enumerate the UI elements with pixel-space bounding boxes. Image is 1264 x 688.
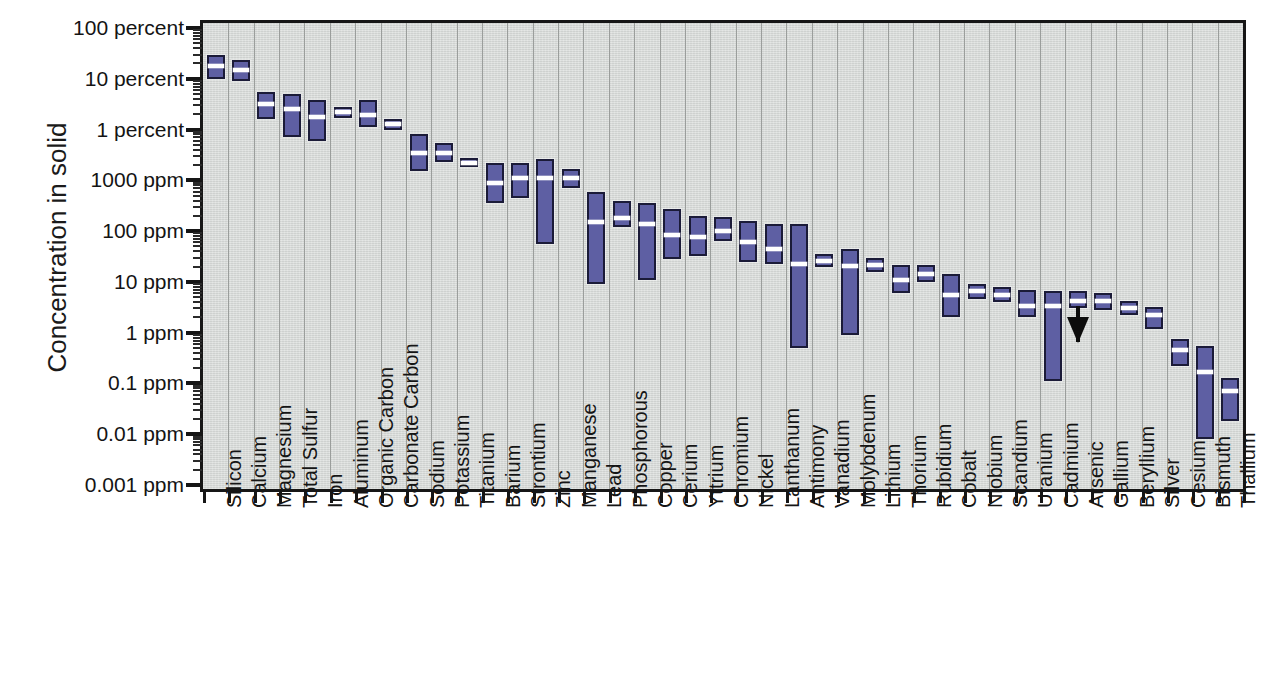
gridline: [1142, 23, 1143, 489]
gridline: [482, 23, 483, 489]
y-axis-tick-labels: 100 percent10 percent1 percent1000 ppm10…: [0, 0, 186, 500]
median-line: [335, 110, 351, 114]
y-minor-tick: [193, 89, 202, 91]
gridline: [1040, 23, 1041, 489]
gridline: [964, 23, 965, 489]
gridline: [1015, 23, 1016, 489]
median-line: [385, 122, 401, 126]
gridline: [533, 23, 534, 489]
gridline: [583, 23, 584, 489]
x-tick-mark: [279, 492, 282, 503]
gridline: [330, 23, 331, 489]
x-tick-mark: [1116, 492, 1119, 503]
median-line: [309, 115, 325, 119]
y-minor-tick: [193, 286, 202, 288]
x-tick-mark: [558, 492, 561, 503]
x-tick-mark: [1142, 492, 1145, 503]
x-tick-mark: [533, 492, 536, 503]
median-line: [411, 151, 427, 155]
gridline: [863, 23, 864, 489]
median-line: [588, 220, 604, 224]
gridline: [1091, 23, 1092, 489]
x-tick-mark: [786, 492, 789, 503]
y-minor-tick: [193, 289, 202, 291]
y-minor-tick: [193, 38, 202, 40]
y-tick-label: 0.1 ppm: [0, 371, 186, 395]
range-bar: [511, 163, 529, 198]
median-line: [1146, 313, 1162, 317]
x-tick-mark: [736, 492, 739, 503]
median-line: [715, 229, 731, 233]
median-line: [1019, 304, 1035, 308]
x-tick-mark: [1167, 492, 1170, 503]
gridline: [507, 23, 508, 489]
gridline: [381, 23, 382, 489]
y-minor-tick: [193, 469, 202, 471]
x-tick-mark: [913, 492, 916, 503]
y-minor-tick: [193, 104, 202, 106]
y-axis-tick-marks: [186, 0, 202, 688]
x-tick-mark: [457, 492, 460, 503]
median-line: [537, 176, 553, 180]
x-tick-mark: [228, 492, 231, 503]
median-line: [360, 113, 376, 117]
x-tick-mark: [1192, 492, 1195, 503]
median-line: [1172, 348, 1188, 352]
range-bar: [613, 201, 631, 228]
y-minor-tick: [193, 444, 202, 446]
range-bar: [790, 224, 808, 348]
median-line: [842, 264, 858, 268]
y-minor-tick: [193, 449, 202, 451]
y-minor-tick: [193, 191, 202, 193]
gridline: [812, 23, 813, 489]
y-minor-tick: [193, 266, 202, 268]
gridline: [710, 23, 711, 489]
x-tick-mark: [710, 492, 713, 503]
range-bar: [587, 192, 605, 285]
y-minor-tick: [193, 187, 202, 189]
y-minor-tick: [193, 418, 202, 420]
y-minor-tick: [193, 241, 202, 243]
chart-root: Concentration in solid 100 percent10 per…: [0, 0, 1264, 688]
median-line: [1197, 370, 1213, 374]
y-minor-tick: [193, 403, 202, 405]
x-tick-mark: [406, 492, 409, 503]
median-line: [943, 293, 959, 297]
y-minor-tick: [193, 394, 202, 396]
gridline: [939, 23, 940, 489]
x-tick-mark: [1218, 492, 1221, 503]
median-line: [512, 176, 528, 180]
y-minor-tick: [193, 93, 202, 95]
median-line: [461, 161, 477, 165]
y-minor-tick: [193, 195, 202, 197]
plot-area: [200, 20, 1246, 492]
median-line: [436, 151, 452, 155]
y-minor-tick: [193, 343, 202, 345]
median-line: [969, 289, 985, 293]
range-bar: [536, 159, 554, 244]
y-tick-label: 100 percent: [0, 16, 186, 40]
gridline: [355, 23, 356, 489]
gridline: [558, 23, 559, 489]
gridline: [837, 23, 838, 489]
y-minor-tick: [193, 453, 202, 455]
y-tick-label: 0.001 ppm: [0, 473, 186, 497]
gridline: [1065, 23, 1066, 489]
y-minor-tick: [193, 358, 202, 360]
median-line: [614, 216, 630, 220]
y-minor-tick: [193, 29, 202, 31]
x-tick-mark: [634, 492, 637, 503]
y-minor-tick: [193, 441, 202, 443]
x-axis-ticks: [200, 492, 1246, 504]
y-minor-tick: [193, 184, 202, 186]
y-minor-tick: [193, 200, 202, 202]
plot-texture: [203, 23, 1243, 489]
x-tick-mark: [761, 492, 764, 503]
y-minor-tick: [193, 245, 202, 247]
y-minor-tick: [193, 149, 202, 151]
y-minor-tick: [193, 438, 202, 440]
x-tick-mark: [1040, 492, 1043, 503]
y-minor-tick: [193, 257, 202, 259]
gridline: [254, 23, 255, 489]
x-tick-mark: [330, 492, 333, 503]
